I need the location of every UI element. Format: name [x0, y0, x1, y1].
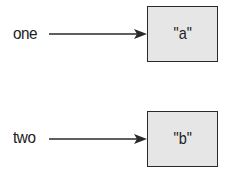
- value-text-b: "b": [173, 129, 191, 149]
- value-text-a: "a": [173, 24, 191, 44]
- arrow-one: [49, 29, 147, 39]
- value-box-b: "b": [147, 111, 218, 167]
- value-box-a: "a": [147, 6, 218, 62]
- arrow-two: [49, 134, 147, 144]
